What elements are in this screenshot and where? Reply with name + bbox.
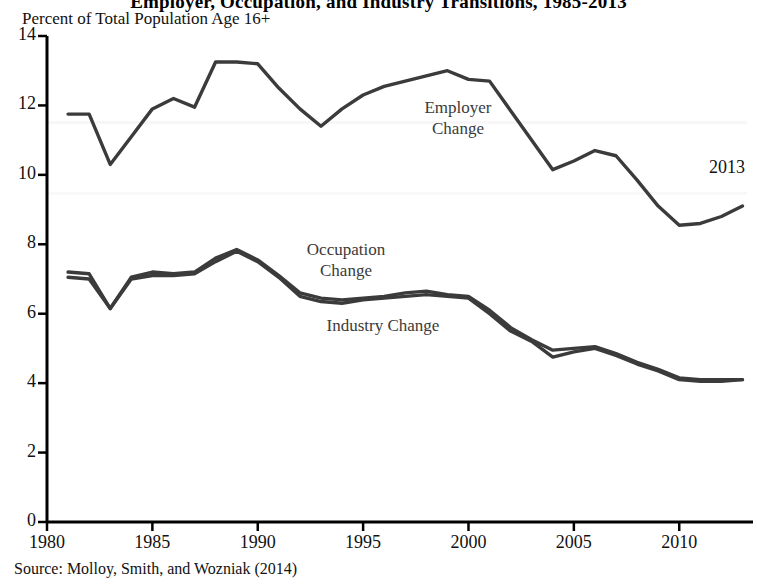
y-tick-label: 6: [2, 302, 36, 323]
x-tick-label: 1995: [328, 532, 398, 553]
x-tick-label: 1985: [117, 532, 187, 553]
y-tick-label: 4: [2, 371, 36, 392]
annotation-employer-line1: Employer: [398, 98, 518, 119]
y-tick-label: 10: [2, 163, 36, 184]
chart-figure: Employer, Occupation, and Industry Trans…: [0, 0, 757, 584]
source-note: Source: Molloy, Smith, and Wozniak (2014…: [14, 560, 297, 578]
series-line-employer-change: [68, 62, 742, 225]
x-tick-label: 2005: [539, 532, 609, 553]
x-tick-label: 2000: [433, 532, 503, 553]
annotation-employer-line2: Change: [398, 119, 518, 140]
y-tick-label: 12: [2, 93, 36, 114]
end-year-annotation: 2013: [709, 157, 745, 178]
x-tick-label: 1990: [223, 532, 293, 553]
x-tick-label: 2010: [644, 532, 714, 553]
plot-area: [0, 0, 757, 584]
y-tick-label: 2: [2, 441, 36, 462]
y-tick-label: 14: [2, 24, 36, 45]
annotation-occupation-line1: Occupation: [281, 240, 411, 261]
annotation-industry-change: Industry Change: [303, 316, 463, 337]
y-tick-label: 8: [2, 232, 36, 253]
x-tick-label: 1980: [12, 532, 82, 553]
annotation-occupation-change: Occupation Change: [281, 240, 411, 281]
annotation-employer-change: Employer Change: [398, 98, 518, 139]
y-tick-label: 0: [2, 510, 36, 531]
annotation-occupation-line2: Change: [281, 261, 411, 282]
